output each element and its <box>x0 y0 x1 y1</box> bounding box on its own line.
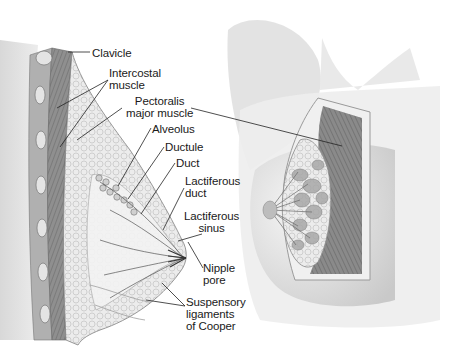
label-nipple-pore: Nipple pore <box>203 262 235 286</box>
leader-cooper-b <box>146 300 185 306</box>
label-suspensory-ligaments-of-cooper: Suspensory ligaments of Cooper <box>186 296 246 332</box>
breast-anatomy-diagram: Clavicle Intercostal muscle Pectoralis m… <box>0 0 472 351</box>
label-intercostal-muscle: Intercostal muscle <box>109 67 161 91</box>
label-lactiferous-sinus: Lactiferous sinus <box>184 210 239 234</box>
leader-cooper-a <box>162 283 185 306</box>
leader-lactiferous-sinus <box>178 234 202 241</box>
leader-nipple-pore <box>188 242 203 268</box>
label-alveolus: Alveolus <box>152 123 195 135</box>
label-duct: Duct <box>176 157 199 169</box>
label-clavicle: Clavicle <box>92 47 131 59</box>
label-ductule: Ductule <box>165 141 203 153</box>
label-pectoralis-major-muscle: Pectoralis major muscle <box>126 95 193 119</box>
anterior-torso-view <box>227 20 440 328</box>
label-lactiferous-duct: Lactiferous duct <box>185 175 240 199</box>
